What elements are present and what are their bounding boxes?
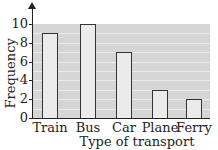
y-tick: [29, 43, 33, 44]
bar-train: [42, 33, 58, 118]
x-tick-label: Car: [104, 120, 144, 135]
y-tick: [29, 80, 33, 81]
bar-plane: [152, 90, 168, 118]
y-tick-label: 0: [4, 111, 28, 124]
bar-bus: [80, 24, 96, 118]
x-tick-label: Bus: [68, 120, 108, 135]
y-tick: [29, 118, 33, 119]
x-axis: [29, 118, 210, 119]
y-axis-title: Frequency: [3, 39, 18, 109]
x-tick-label: Train: [30, 120, 70, 135]
gridline: [32, 43, 210, 44]
bar-car: [116, 52, 132, 118]
bar-ferry: [186, 99, 202, 118]
x-tick-label: Ferry: [174, 120, 214, 135]
y-tick-label: 10: [4, 17, 28, 30]
y-axis-arrow-icon: [28, 2, 36, 9]
x-axis-title: Type of transport: [62, 134, 212, 149]
gridline: [32, 33, 210, 34]
y-tick: [29, 99, 33, 100]
y-tick: [29, 62, 33, 63]
y-tick: [29, 24, 33, 25]
